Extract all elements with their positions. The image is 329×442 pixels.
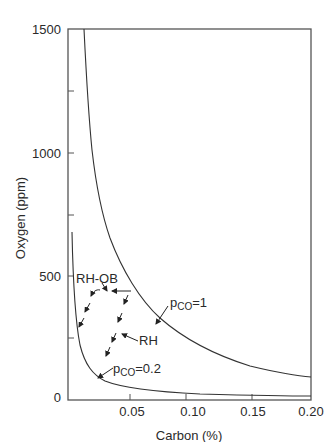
x-tick-label: 0.05 bbox=[119, 404, 144, 419]
curve-pco-1 bbox=[84, 29, 311, 377]
y-tick-label: 1500 bbox=[32, 22, 61, 37]
label-pco-0-2: pCO=0.2 bbox=[113, 361, 161, 378]
label-pco-1: pCO=1 bbox=[170, 295, 207, 312]
x-axis-title: Carbon (%) bbox=[156, 428, 222, 442]
y-tick-label: 0 bbox=[54, 390, 61, 405]
label-rh: RH bbox=[139, 333, 158, 348]
oxygen-carbon-chart: 1500 1000 500 0 0.05 0.10 0.15 0.20 Carb… bbox=[0, 0, 329, 442]
x-tick-label: 0.10 bbox=[180, 404, 205, 419]
plot-frame bbox=[68, 29, 311, 400]
y-axis-title: Oxygen (ppm) bbox=[13, 177, 28, 259]
x-tick-label: 0.15 bbox=[240, 404, 265, 419]
label-rh-ob: RH-OB bbox=[76, 271, 118, 286]
y-tick-label: 500 bbox=[39, 269, 61, 284]
y-axis-ticks bbox=[68, 91, 74, 338]
x-tick-label: 0.20 bbox=[298, 404, 323, 419]
y-tick-label: 1000 bbox=[32, 146, 61, 161]
